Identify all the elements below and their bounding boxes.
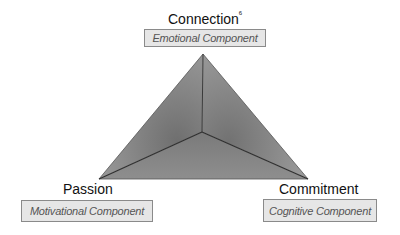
vertex-title-commitment: Commitment: [279, 181, 358, 197]
emotional-component-box: Emotional Component: [144, 29, 266, 47]
vertex-title-connection: Connection6: [168, 11, 242, 27]
vertex-title-passion: Passion: [63, 181, 113, 197]
footnote-marker: 6: [239, 10, 242, 16]
cognitive-component-box: Cognitive Component: [263, 199, 377, 222]
motivational-component-box: Motivational Component: [21, 200, 153, 222]
connection-label: Connection: [168, 11, 239, 27]
